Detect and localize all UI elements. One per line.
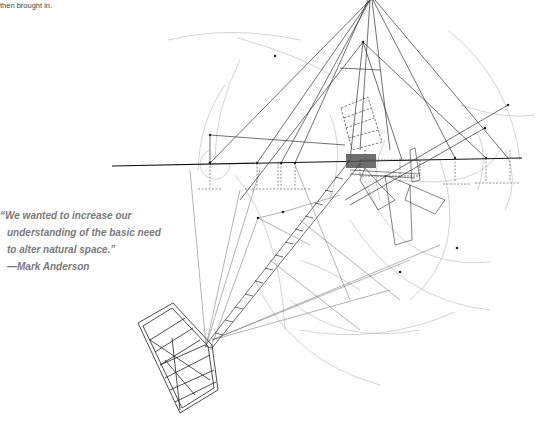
architectural-drawing <box>0 0 542 424</box>
horizon-line <box>112 158 522 166</box>
truss-boom <box>205 160 360 348</box>
guy-lines <box>210 0 508 205</box>
box-module <box>138 303 218 413</box>
construction-arcs <box>168 30 535 385</box>
central-hub <box>346 148 445 245</box>
support-lines <box>190 165 440 350</box>
